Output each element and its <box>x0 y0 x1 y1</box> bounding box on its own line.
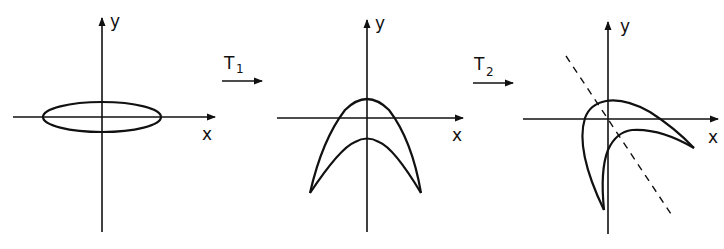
panel-original: y x <box>13 11 215 232</box>
outer-curve <box>582 100 694 210</box>
x-axis-label: x <box>452 125 462 145</box>
panel-after-t2: y x <box>523 16 718 234</box>
transformation-diagram: y x T 1 y x T 2 y x <box>0 0 724 249</box>
inner-curve <box>603 130 694 210</box>
transform-subscript: 1 <box>236 62 244 76</box>
transform-t2: T 2 <box>473 54 513 83</box>
transform-label: T <box>473 54 485 74</box>
x-axis-label: x <box>708 127 718 147</box>
transform-subscript: 2 <box>486 65 494 79</box>
y-axis-label: y <box>110 11 120 31</box>
panel-after-t1: y x <box>277 13 463 232</box>
x-axis-label: x <box>202 124 212 144</box>
inner-parabola <box>310 139 421 194</box>
transform-label: T <box>223 53 235 73</box>
transform-t1: T 1 <box>222 53 262 81</box>
y-axis-label: y <box>375 13 385 33</box>
y-axis-label: y <box>620 16 630 36</box>
outer-parabola <box>310 99 421 193</box>
